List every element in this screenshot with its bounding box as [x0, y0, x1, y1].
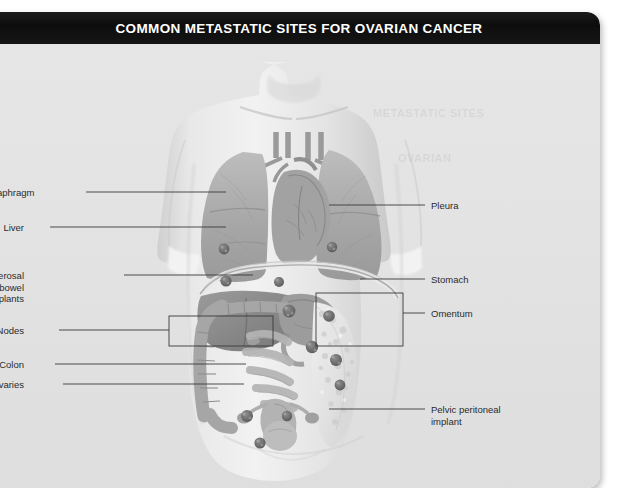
figure-title-bar: COMMON METASTATIC SITES FOR OVARIAN CANC…: [0, 12, 600, 44]
ghost-artifact-1: OVARIAN: [398, 152, 451, 164]
label-nodes: Nodes: [0, 325, 24, 337]
anatomy-illustration: DiaphragmLiverSerosal bowel implantsNode…: [0, 44, 600, 488]
annotation-layer: DiaphragmLiverSerosal bowel implantsNode…: [0, 44, 600, 488]
label-pelvic-peritoneal-implant: Pelvic peritoneal implant: [431, 404, 501, 427]
label-ovaries: Ovaries: [0, 379, 24, 391]
ghost-artifact-0: METASTATIC SITES: [373, 107, 484, 119]
label-omentum: Omentum: [431, 308, 473, 320]
label-diaphragm: Diaphragm: [0, 187, 24, 199]
figure-card: COMMON METASTATIC SITES FOR OVARIAN CANC…: [0, 12, 600, 488]
page-title: COMMON METASTATIC SITES FOR OVARIAN CANC…: [106, 21, 483, 36]
label-stomach: Stomach: [431, 274, 469, 286]
label-colon: Colon: [0, 359, 24, 371]
label-liver: Liver: [0, 222, 24, 234]
label-pleura: Pleura: [431, 200, 458, 212]
label-serosal-bowel-implants: Serosal bowel implants: [0, 270, 24, 305]
